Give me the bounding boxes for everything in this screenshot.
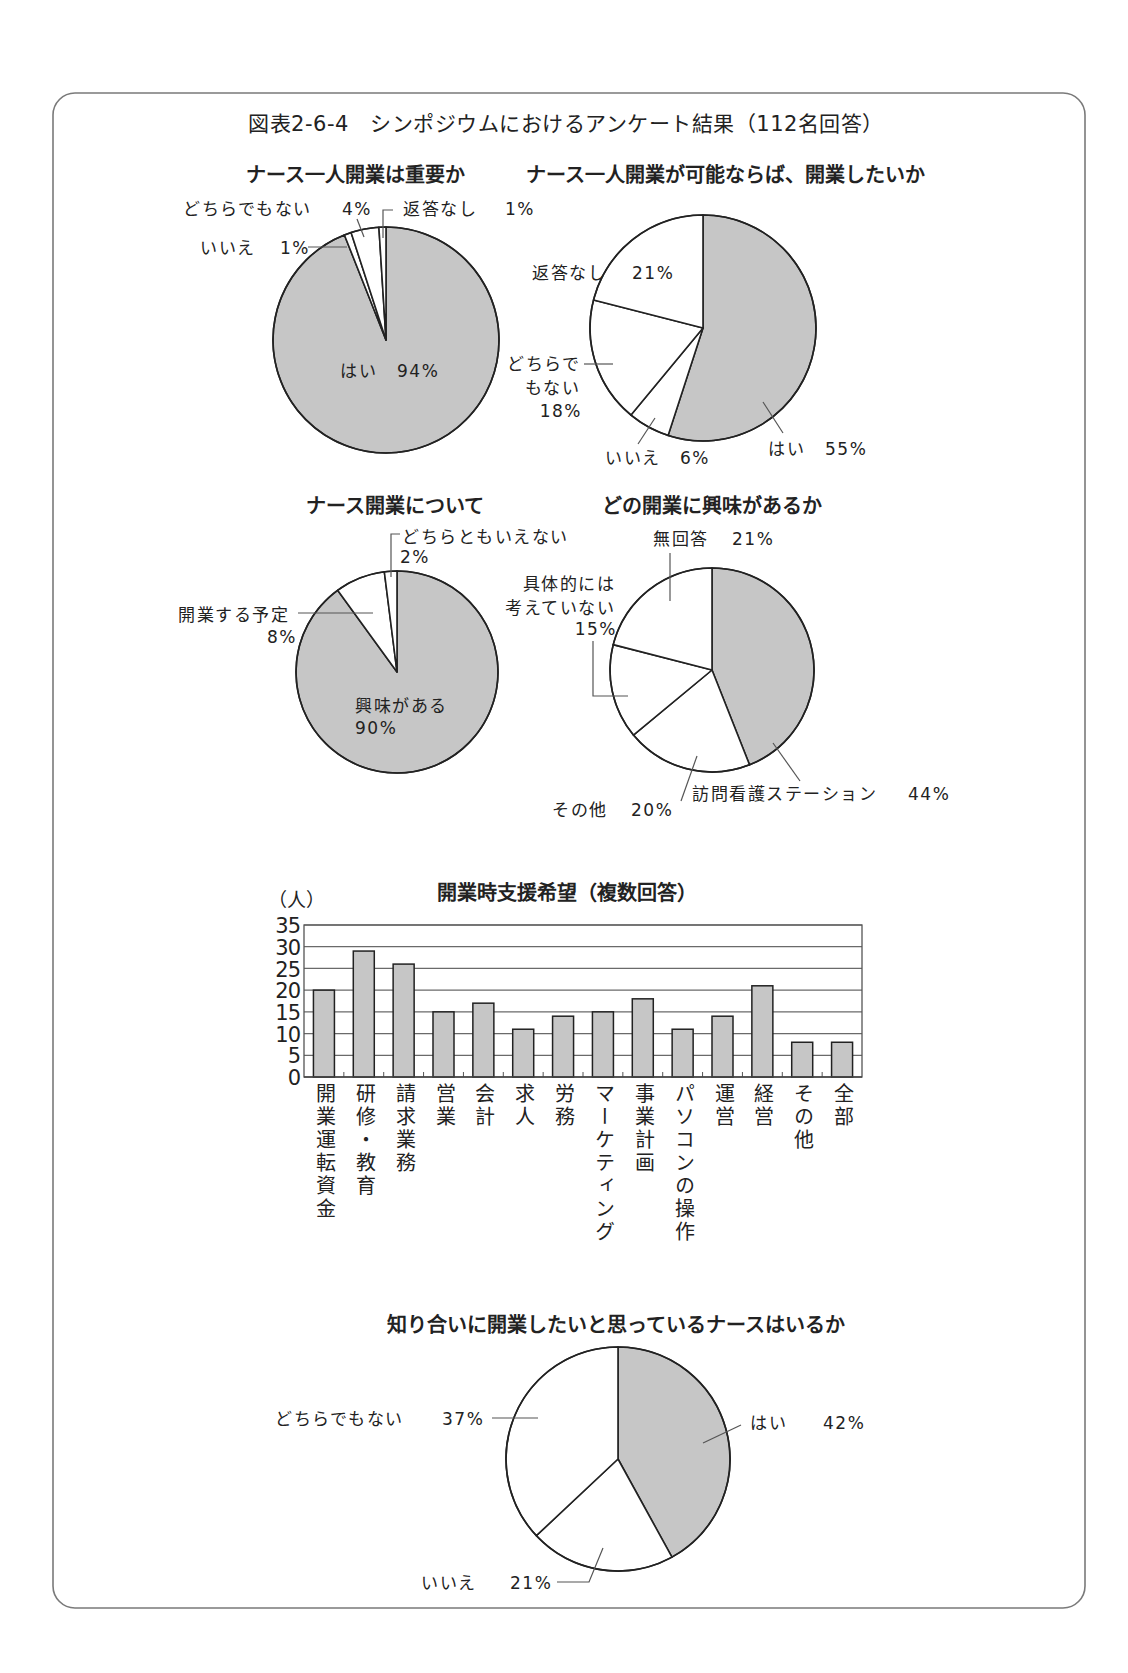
slice-label-neither-line2: もない: [525, 378, 581, 398]
bar: [592, 1012, 613, 1077]
bar: [752, 986, 773, 1077]
slice-value: 21%: [632, 263, 674, 283]
pie-slices: [273, 227, 499, 453]
pie-chart-importance: ナース一人開業は重要か どちらでもない 4% 返答なし 1% いいえ 1% はい…: [183, 163, 535, 453]
slice-label-text: 訪問看護ステーション: [692, 784, 877, 804]
slice-label-text: はい: [768, 439, 805, 459]
bar: [832, 1042, 853, 1077]
y-tick: 0: [288, 1066, 300, 1090]
slice-value: 6%: [680, 448, 710, 468]
slice-value: 1%: [505, 199, 535, 219]
slice-label-other: その他 20%: [552, 800, 673, 820]
slice-label-no-answer: 返答なし 1%: [403, 199, 535, 219]
x-label: 請求業務: [393, 1083, 415, 1175]
bar: [313, 990, 334, 1077]
bar: [513, 1029, 534, 1077]
slice-label-text: いいえ: [605, 448, 661, 468]
bar: [712, 1016, 733, 1077]
pie-slices: [610, 568, 814, 772]
slice-label-neither: どちらでもない 4%: [183, 199, 372, 219]
slice-label-text: その他: [552, 800, 608, 820]
x-label: 会計: [472, 1083, 494, 1129]
slice-label-home-nursing: 訪問看護ステーション 44%: [692, 784, 950, 804]
slice-label-neither-line1: どちらで: [507, 354, 580, 374]
y-tick: 20: [275, 979, 300, 1003]
pie-slices: [590, 215, 816, 441]
slice-value: 1%: [280, 238, 310, 258]
x-label: 労務: [552, 1083, 574, 1129]
plot-border: [304, 925, 862, 1077]
slice-value: 37%: [442, 1409, 484, 1429]
pie-chart-about-opening: ナース開業について どちらともいえない 2% 開業する予定 8% 興味がある 9…: [178, 494, 569, 773]
figure-title: 図表2-6-4 シンポジウムにおけるアンケート結果（112名回答）: [248, 112, 884, 136]
slice-label-yes: はい 42%: [750, 1413, 865, 1433]
slice-label-text: いいえ: [421, 1573, 477, 1593]
y-tick: 35: [275, 914, 300, 938]
slice-label-text: 無回答: [653, 529, 709, 549]
x-label: 経営: [751, 1083, 773, 1129]
x-label: 開業運転資金: [313, 1083, 335, 1221]
bar: [672, 1029, 693, 1077]
pie-slices: [506, 1347, 730, 1571]
slice-label-text: 返答なし: [403, 199, 477, 219]
slice-value: 21%: [510, 1573, 552, 1593]
chart-title: どの開業に興味があるか: [602, 494, 822, 518]
x-label: その他: [791, 1083, 813, 1152]
slice-label-neither: どちらでもない 37%: [275, 1409, 484, 1429]
slice-value-interested: 90%: [355, 718, 397, 738]
slice-value: 55%: [825, 439, 867, 459]
bar-chart-support-wishes: 開業時支援希望（複数回答） （人） 35 30 25 20 15 10 5 0: [268, 881, 862, 1090]
x-label: 求人: [512, 1083, 534, 1129]
slice-value-neither: 18%: [540, 401, 582, 421]
pie-chart-business-interest: どの開業に興味があるか 無回答 21% 具体的には 考えていない 15% 訪問看…: [505, 494, 950, 820]
y-tick: 15: [275, 1001, 300, 1025]
slice-label-text: 返答なし: [532, 263, 606, 283]
slice-value: 94%: [397, 361, 439, 381]
y-tick: 30: [275, 936, 300, 960]
x-label: 研修・教育: [353, 1083, 375, 1198]
slice-value: 20%: [631, 800, 673, 820]
slice-label-undecided: どちらともいえない: [402, 527, 569, 547]
slice-label-text: いいえ: [200, 238, 256, 258]
chart-title: 開業時支援希望（複数回答）: [437, 881, 697, 905]
bar: [473, 1003, 494, 1077]
x-label: 全部: [831, 1083, 853, 1129]
slice-label-yes: はい 55%: [768, 439, 867, 459]
x-label: 運営: [712, 1083, 734, 1129]
chart-title: ナース一人開業が可能ならば、開業したいか: [526, 163, 925, 187]
bar: [433, 1012, 454, 1077]
x-label: 営業: [433, 1083, 455, 1129]
slice-value-planning: 8%: [267, 627, 297, 647]
bar: [353, 951, 374, 1077]
slice-value: 21%: [732, 529, 774, 549]
slice-label-text: はい: [340, 361, 377, 381]
slice-value: 44%: [908, 784, 950, 804]
slice-label-no-answer: 返答なし 21%: [532, 263, 674, 283]
slice-value: 4%: [342, 199, 372, 219]
slice-label-text: どちらでもない: [183, 199, 312, 219]
slice-label-no: いいえ 6%: [605, 448, 710, 468]
slice-value-not-specific: 15%: [575, 619, 617, 639]
slice-label-not-specific-line2: 考えていない: [505, 598, 615, 618]
slice-label-no: いいえ 21%: [421, 1573, 552, 1593]
slice-value-undecided: 2%: [400, 547, 430, 567]
slice-label-text: どちらでもない: [275, 1409, 404, 1429]
bar: [393, 964, 414, 1077]
pie-chart-want-to-open: ナース一人開業が可能ならば、開業したいか 返答なし 21% どちらで もない 1…: [507, 163, 925, 468]
figure-page: 図表2-6-4 シンポジウムにおけるアンケート結果（112名回答） ナース一人開…: [0, 0, 1128, 1673]
x-label: パソコンの操作: [672, 1083, 694, 1244]
slice-label-not-specific-line1: 具体的には: [523, 574, 616, 594]
figure-canvas: 図表2-6-4 シンポジウムにおけるアンケート結果（112名回答） ナース一人開…: [0, 0, 1128, 1673]
chart-title: ナース開業について: [306, 494, 484, 518]
y-axis-ticks: 35 30 25 20 15 10 5 0: [275, 914, 300, 1090]
slice-label-planning: 開業する予定: [178, 605, 289, 625]
x-label: マーケティング: [592, 1083, 614, 1244]
plot-area: [304, 925, 862, 1077]
pie-slices: [296, 571, 498, 773]
x-label: 事業計画: [632, 1083, 654, 1175]
bar: [792, 1042, 813, 1077]
chart-title: ナース一人開業は重要か: [246, 163, 465, 187]
slice-label-no: いいえ 1%: [200, 238, 310, 258]
slice-label-no-answer: 無回答 21%: [653, 529, 774, 549]
y-tick: 5: [288, 1044, 300, 1068]
